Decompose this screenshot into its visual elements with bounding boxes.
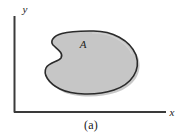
region-a-shape bbox=[45, 31, 137, 94]
figure-caption: (a) bbox=[0, 118, 182, 133]
figure-container: A y x (a) bbox=[0, 0, 182, 138]
region-label-a: A bbox=[79, 38, 87, 50]
x-axis-label: x bbox=[169, 106, 175, 118]
y-axis-label: y bbox=[22, 3, 28, 15]
